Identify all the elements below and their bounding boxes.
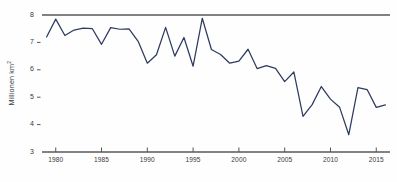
x-axis-tickmarks (56, 148, 377, 153)
chart-container: Millionen km2 876543 1980198519901995200… (0, 0, 397, 182)
chart-plot-area (0, 0, 397, 182)
sea-ice-extent-line (47, 18, 386, 134)
y-axis-tickmarks (37, 42, 41, 124)
axes-group (42, 15, 390, 152)
